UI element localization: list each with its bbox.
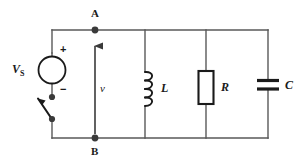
resistor-label: R (221, 81, 229, 93)
circuit-diagram: A B VS + − v L R C (0, 0, 307, 166)
voltage-source-label: VS (12, 63, 24, 78)
node-b-dot (92, 135, 99, 142)
switch-terminal-upper-dot (49, 94, 55, 100)
circuit-schematic-canvas (0, 0, 307, 166)
source-plus-sign: + (60, 44, 66, 55)
resistor-symbol (199, 71, 214, 104)
switch-terminal-lower-dot (49, 116, 55, 122)
voltage-source-label-v: V (12, 62, 20, 76)
capacitor-label: C (285, 79, 293, 91)
source-minus-sign: − (60, 84, 66, 95)
capacitor-symbol (257, 81, 279, 90)
switch-symbol (38, 94, 55, 122)
voltage-source-label-sub: S (20, 69, 24, 78)
voltage-source-symbol (39, 57, 66, 84)
node-a-label: A (91, 8, 99, 19)
node-a-dot (92, 27, 99, 34)
inductor-label: L (161, 82, 168, 94)
voltage-label: v (100, 83, 105, 94)
inductor-symbol (145, 72, 152, 106)
node-b-label: B (91, 146, 98, 157)
